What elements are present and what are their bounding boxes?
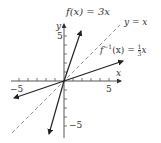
y-axis-label: y xyxy=(56,22,61,31)
y-tick-label-pos: 5 xyxy=(57,32,63,41)
f-line-neg xyxy=(49,81,64,134)
f-line xyxy=(64,31,81,81)
f-label: f(x) = 3x xyxy=(66,7,110,17)
x-tick-label-pos: 5 xyxy=(106,85,112,94)
inverse-mid: (x) = xyxy=(112,45,137,55)
identity-label: y = x xyxy=(124,18,147,27)
x-axis-label: x xyxy=(116,69,121,78)
x-tick-label-neg: −5 xyxy=(10,85,23,94)
inverse-label: f−1(x) = 13x xyxy=(100,44,146,57)
inverse-line xyxy=(64,61,123,81)
y-tick-label-neg: −5 xyxy=(69,121,82,130)
inverse-sup: −1 xyxy=(103,43,112,50)
inverse-suffix: x xyxy=(141,45,146,55)
